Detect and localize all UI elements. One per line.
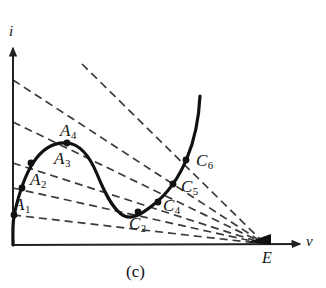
- figure-caption: (c): [126, 262, 145, 282]
- operating-point-A3: [28, 160, 35, 167]
- operating-point-C5: [170, 181, 177, 188]
- source-point-label-E: E: [262, 250, 272, 266]
- iv-characteristic-figure: i v E (c) A1A2A3A4C2C4C5C6: [0, 0, 326, 288]
- point-label-subscript: 2: [40, 178, 46, 190]
- point-label-subscript: 2: [140, 222, 146, 234]
- v-axis-line: [13, 244, 300, 245]
- point-label-A1: A1: [14, 196, 30, 215]
- i-axis-label: i: [9, 24, 13, 39]
- load-line: [82, 64, 265, 244]
- point-label-subscript: 4: [174, 204, 180, 216]
- point-label-C2: C2: [129, 215, 146, 234]
- point-label-base: A: [60, 121, 70, 140]
- point-label-A4: A4: [60, 122, 76, 141]
- point-label-C4: C4: [163, 197, 180, 216]
- point-label-subscript: 5: [192, 185, 198, 197]
- point-label-subscript: 4: [70, 129, 76, 141]
- point-label-A2: A2: [30, 171, 46, 190]
- figure-canvas: [0, 0, 326, 288]
- point-label-subscript: 3: [64, 157, 70, 169]
- point-label-base: C: [129, 214, 140, 233]
- point-label-subscript: 6: [207, 159, 213, 171]
- point-label-base: C: [196, 151, 207, 170]
- point-label-base: C: [181, 177, 192, 196]
- point-label-C6: C6: [196, 152, 213, 171]
- point-label-base: A: [54, 149, 64, 168]
- point-label-subscript: 1: [24, 203, 30, 215]
- point-label-base: C: [163, 196, 174, 215]
- point-label-C5: C5: [181, 178, 198, 197]
- point-label-base: A: [30, 170, 40, 189]
- v-axis-label: v: [306, 234, 313, 249]
- operating-point-C4: [155, 199, 162, 206]
- point-label-A3: A3: [54, 150, 70, 169]
- axes-group: [13, 48, 300, 245]
- operating-point-C6: [183, 157, 190, 164]
- point-label-base: A: [14, 195, 24, 214]
- operating-point-A2: [19, 185, 26, 192]
